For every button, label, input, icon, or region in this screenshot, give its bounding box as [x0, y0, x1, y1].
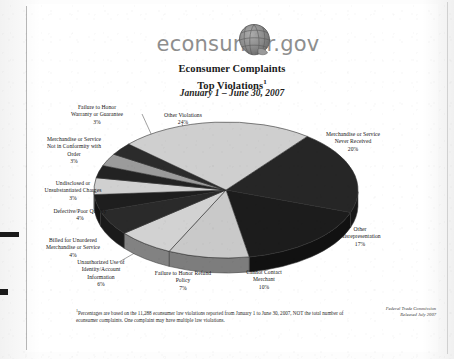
pie-callout-label: Defective/Poor Quality4%	[37, 208, 123, 223]
callout-label-line: Failure to Honor	[53, 104, 141, 111]
callout-percent: 3%	[53, 119, 141, 126]
callout-label-line: Defective/Poor Quality	[37, 208, 123, 215]
page-right-edge	[447, 2, 448, 354]
callout-label-line: Merchandise or Service	[299, 131, 407, 138]
pie-callout-label: Unauthorized Use ofIdentity/AccountInfor…	[58, 259, 144, 289]
callout-percent: 4%	[28, 252, 118, 259]
credit-release: Released July 2007	[352, 312, 436, 318]
callout-percent: 4%	[37, 215, 123, 222]
scanned-page: econsumer.gov Econsu	[0, 0, 454, 359]
scan-margin-mark	[0, 289, 8, 295]
callout-label-line: Undisclosed or	[27, 180, 119, 187]
pie-callout-label: Failure to Honor RefundPolicy7%	[140, 270, 226, 292]
callout-label-line: Misrepresentation	[307, 233, 413, 240]
callout-label-line: Information	[58, 274, 144, 281]
globe-icon	[236, 22, 272, 58]
chart-subtitle: January 1 – June 30, 2007	[27, 88, 437, 98]
page-left-edge	[26, 6, 27, 350]
title-footnote-marker: 1	[263, 78, 267, 86]
callout-percent: 3%	[27, 195, 119, 202]
pie-callout-label: Billed for UnorderedMerchandise or Servi…	[28, 237, 118, 259]
econsumer-logo: econsumer.gov	[148, 28, 328, 62]
pie-callout-label: Merchandise or ServiceNot in Conformity …	[29, 136, 119, 166]
chart-title-line1: Econsumer Complaints	[27, 63, 437, 76]
pie-callout-label: Cannot ContactMerchant10%	[222, 269, 306, 291]
footnote-text: Percentages are based on the 11,288 econ…	[76, 310, 343, 323]
pie-callout-label: OtherMisrepresentation17%	[307, 226, 413, 248]
callout-percent: 3%	[29, 158, 119, 165]
pie-callout-label: Failure to HonorWarranty or Guarantee3%	[53, 104, 141, 126]
callout-label-line: Policy	[140, 277, 226, 284]
callout-label-line: Cannot Contact	[222, 269, 306, 276]
callout-label-line: Identity/Account	[58, 266, 144, 273]
callout-percent: 20%	[299, 146, 407, 153]
callout-percent: 10%	[222, 284, 306, 291]
callout-label-line: Order	[29, 151, 119, 158]
callout-label-line: Merchant	[222, 276, 306, 283]
pie-callout-label: Merchandise or ServiceNever Received20%	[299, 131, 407, 153]
scan-margin-mark	[0, 232, 19, 237]
footnote: 1Percentages are based on the 11,288 eco…	[76, 307, 346, 324]
callout-percent: 6%	[58, 281, 144, 288]
pie-callout-label: Other Violations24%	[140, 112, 226, 127]
pie-callout-label: Undisclosed orUnsubstantiated Charges3%	[27, 180, 119, 202]
callout-label-line: Warranty or Guarantee	[53, 111, 141, 118]
callout-label-line: Billed for Unordered	[28, 237, 118, 244]
callout-percent: 24%	[140, 119, 226, 126]
callout-label-line: Unauthorized Use of	[58, 259, 144, 266]
agency-credit: Federal Trade Commission Released July 2…	[352, 306, 436, 318]
callout-label-line: Failure to Honor Refund	[140, 270, 226, 277]
callout-label-line: Merchandise or Service	[29, 136, 119, 143]
callout-label-line: Merchandise or Service	[28, 244, 118, 251]
callout-label-line: Never Received	[299, 138, 407, 145]
callout-label-line: Other Violations	[140, 112, 226, 119]
callout-label-line: Not in Conformity with	[29, 143, 119, 150]
callout-label-line: Unsubstantiated Charges	[27, 187, 119, 194]
callout-label-line: Other	[307, 226, 413, 233]
callout-percent: 7%	[140, 285, 226, 292]
callout-percent: 17%	[307, 241, 413, 248]
